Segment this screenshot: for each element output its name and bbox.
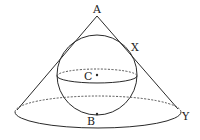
label-tangent-point: X <box>131 41 139 54</box>
bottom-point <box>96 113 98 115</box>
cone-right-side <box>97 16 178 109</box>
label-bottom-point: B <box>87 115 95 128</box>
sphere-equator-front <box>57 76 137 83</box>
cone-sphere-figure: A X C B Y <box>0 0 200 140</box>
label-base-edge-point: Y <box>181 110 190 123</box>
label-center: C <box>84 70 92 83</box>
base-ellipse-back <box>15 96 181 112</box>
label-apex: A <box>92 3 102 16</box>
diagram-canvas: A X C B Y <box>0 0 200 140</box>
center-point <box>96 74 98 76</box>
